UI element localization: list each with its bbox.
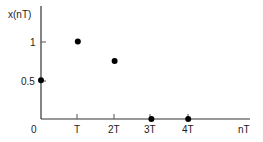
data-points bbox=[38, 39, 191, 123]
y-tick-label-1: 1 bbox=[30, 37, 36, 48]
x-tick-label-3T: 3T bbox=[144, 124, 156, 135]
data-point bbox=[38, 77, 44, 83]
data-point bbox=[148, 116, 154, 122]
y-tick-label-0.5: 0.5 bbox=[21, 76, 35, 87]
x-tick-label-T: T bbox=[74, 124, 80, 135]
y-axis-label: x(nT) bbox=[8, 9, 31, 20]
data-point bbox=[185, 116, 191, 122]
data-point bbox=[112, 58, 118, 64]
x-tick-label-4T: 4T bbox=[182, 124, 194, 135]
x-tick-label-2T: 2T bbox=[108, 124, 120, 135]
data-point bbox=[75, 39, 81, 45]
x-axis-label: nT bbox=[238, 124, 250, 135]
discrete-signal-chart: x(nT) 1 0.5 0 T 2T 3T 4T nT bbox=[0, 0, 263, 142]
x-tick-label-0: 0 bbox=[31, 124, 37, 135]
